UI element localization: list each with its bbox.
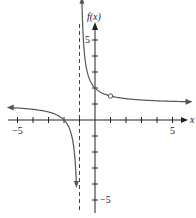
right-arrow-icon	[186, 99, 193, 105]
y-tick-label: 5	[85, 34, 90, 45]
left-branch	[10, 108, 77, 184]
y-axis-label: f(x)	[87, 11, 102, 23]
x-tick-label: −5	[12, 125, 23, 136]
left-arrow-icon	[7, 105, 14, 111]
y-axis-arrow-icon	[92, 22, 98, 30]
up-arrow-icon	[79, 0, 84, 4]
x-tick-label: 5	[170, 125, 175, 136]
hole-marker	[108, 94, 112, 98]
function-graph: 5−55−5xf(x)	[0, 0, 196, 218]
y-tick-label: −5	[100, 194, 111, 205]
labels: 5−55−5xf(x)	[12, 11, 195, 205]
curves	[7, 0, 193, 188]
x-axis-label: x	[189, 114, 195, 125]
x-axis-arrow-icon	[181, 117, 188, 123]
down-arrow-icon	[74, 181, 79, 188]
axes	[8, 22, 188, 213]
